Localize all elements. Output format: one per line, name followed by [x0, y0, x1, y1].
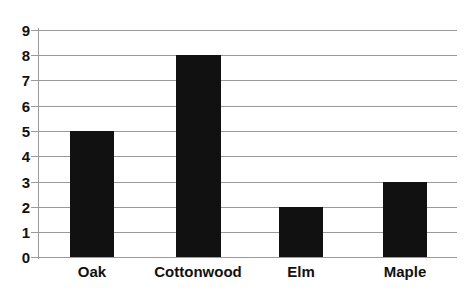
bar-cottonwood [176, 55, 221, 257]
y-tick-label-2: 2 [4, 200, 30, 215]
y-tick-label-9: 9 [4, 23, 30, 38]
plot-area [0, 0, 471, 298]
gridline-8 [31, 55, 457, 56]
gridline-6 [31, 106, 457, 107]
bar-oak [70, 131, 114, 257]
gridline-7 [31, 80, 457, 81]
x-tick-label-cottonwood: Cottonwood [154, 264, 241, 279]
y-tick-label-8: 8 [4, 48, 30, 63]
y-tick-label-4: 4 [4, 149, 30, 164]
bar-chart: 9 8 7 6 5 4 3 2 1 0 Oak Cottonwood Elm M… [0, 0, 471, 298]
y-tick-label-5: 5 [4, 124, 30, 139]
x-tick-label-maple: Maple [384, 264, 427, 279]
y-tick-label-7: 7 [4, 73, 30, 88]
y-axis-tick-labels: 9 8 7 6 5 4 3 2 1 0 [0, 0, 30, 298]
bar-maple [383, 182, 427, 257]
x-tick-label-oak: Oak [78, 264, 106, 279]
bar-elm [279, 207, 323, 257]
y-tick-label-6: 6 [4, 99, 30, 114]
y-tick-label-0: 0 [4, 250, 30, 265]
gridline-0-baseline [31, 257, 457, 258]
y-axis-line [38, 28, 39, 259]
y-tick-label-3: 3 [4, 175, 30, 190]
gridline-9 [31, 30, 457, 31]
x-tick-label-elm: Elm [287, 264, 315, 279]
y-tick-label-1: 1 [4, 225, 30, 240]
